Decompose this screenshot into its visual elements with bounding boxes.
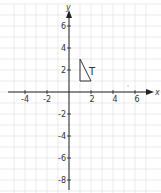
triangle-label: T [88,66,96,77]
y-tick-label: 2 [61,66,66,75]
y-axis-label: y [65,3,71,12]
coordinate-plane: x y -4 -2 2 4 6 6 4 2 -2 -4 -6 -8 T [0,0,161,193]
x-tick-label: -4 [21,95,29,104]
y-tick-label: -4 [58,132,66,141]
x-tick-label: -2 [43,95,51,104]
x-tick-label: 2 [89,95,94,104]
y-tick-label: 6 [61,22,66,31]
x-axis-label: x [154,88,160,97]
x-tick-label: 6 [134,95,139,104]
y-tick-label: -2 [58,110,66,119]
y-tick-label: 4 [61,44,66,53]
y-tick-label: -8 [58,176,66,185]
stray-dot [127,85,129,87]
x-axis-arrow-icon [146,89,154,95]
y-tick-label: -6 [58,154,66,163]
x-tick-label: 4 [112,95,117,104]
